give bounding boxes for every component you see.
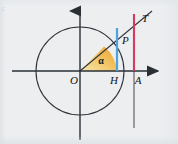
trig-figure-container: c bbox=[0, 0, 178, 144]
label-point-t: T bbox=[142, 12, 149, 24]
unit-circle-svg: O H A P T α bbox=[0, 0, 178, 144]
label-angle-alpha: α bbox=[98, 55, 104, 66]
label-origin: O bbox=[70, 74, 78, 86]
label-point-p: P bbox=[121, 34, 129, 46]
label-point-a: A bbox=[134, 74, 142, 86]
corner-mark-text: c bbox=[1, 4, 5, 13]
label-foot-h: H bbox=[109, 74, 119, 86]
